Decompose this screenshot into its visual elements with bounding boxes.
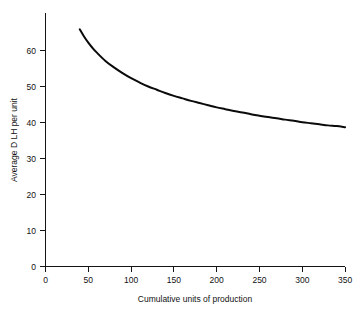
axis-lines (46, 13, 346, 267)
x-tick-label-150: 150 (167, 275, 181, 285)
y-tick-label-0: 0 (31, 262, 36, 272)
learning-curve-figure: 0 10 20 30 40 50 60 0 50 100 150 200 250… (0, 0, 362, 313)
x-tick-marks (46, 267, 346, 273)
y-tick-label-20: 20 (27, 190, 37, 200)
x-tick-label-50: 50 (84, 275, 94, 285)
x-axis-title: Cumulative units of production (138, 294, 253, 304)
x-tick-label-250: 250 (252, 275, 266, 285)
data-curve-average-dlh (80, 29, 345, 127)
y-tick-label-40: 40 (27, 118, 37, 128)
x-tick-label-200: 200 (210, 275, 224, 285)
x-tick-label-0: 0 (43, 275, 48, 285)
x-tick-label-300: 300 (295, 275, 309, 285)
y-tick-label-10: 10 (27, 226, 37, 236)
x-tick-labels: 0 50 100 150 200 250 300 350 (43, 275, 352, 285)
x-tick-label-100: 100 (124, 275, 138, 285)
y-tick-labels: 0 10 20 30 40 50 60 (27, 46, 37, 272)
y-axis-title: Average D LH per unit (9, 97, 19, 182)
y-tick-marks (40, 51, 46, 267)
y-tick-label-30: 30 (27, 154, 37, 164)
chart-canvas: 0 10 20 30 40 50 60 0 50 100 150 200 250… (0, 0, 362, 313)
x-tick-label-350: 350 (338, 275, 352, 285)
y-tick-label-50: 50 (27, 82, 37, 92)
y-tick-label-60: 60 (27, 46, 37, 56)
